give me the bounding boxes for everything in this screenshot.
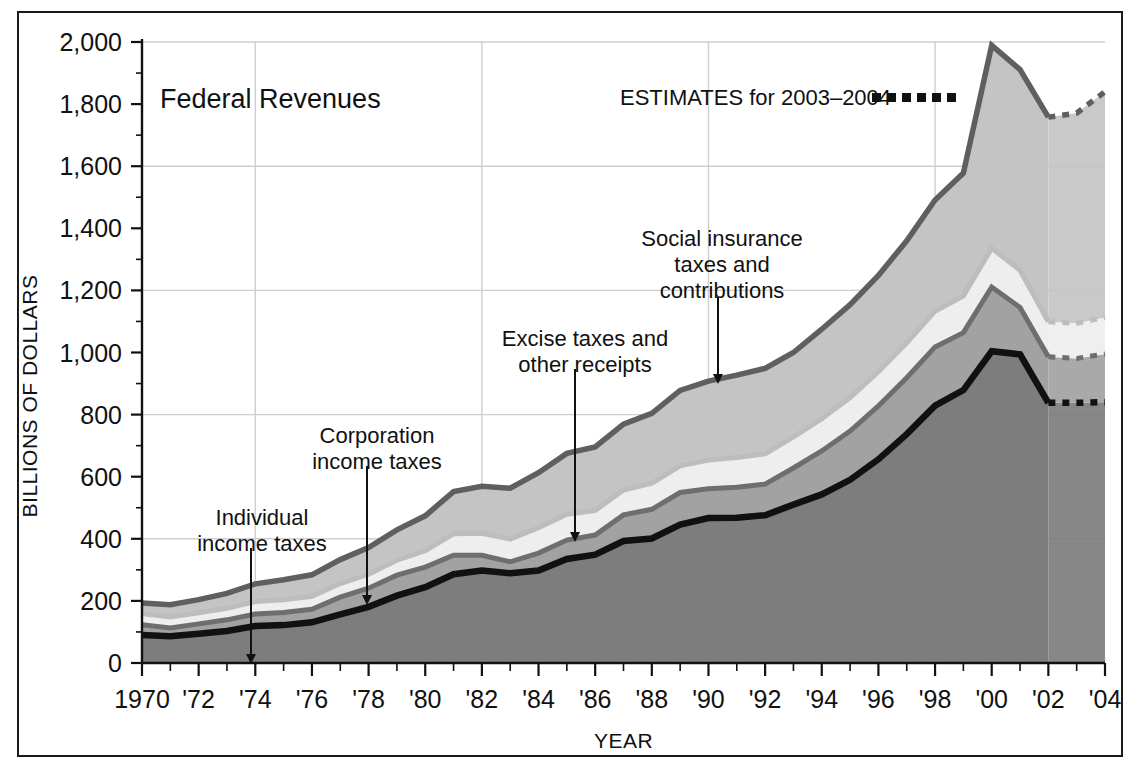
y-tick-label: 800 bbox=[80, 401, 122, 429]
chart-screenshot: 02004006008001,0001,2001,4001,6001,8002,… bbox=[0, 0, 1142, 776]
legend-dotted-line-marker bbox=[932, 93, 941, 102]
x-tick-label: '72 bbox=[182, 685, 215, 713]
annotation-label: Individual bbox=[216, 505, 309, 530]
x-tick-label: '02 bbox=[1032, 685, 1065, 713]
x-tick-label: '04 bbox=[1089, 685, 1122, 713]
area-estimate-3 bbox=[1048, 92, 1105, 324]
x-tick-label: '90 bbox=[692, 685, 725, 713]
y-axis-title: BILLIONS OF DOLLARS bbox=[18, 275, 41, 518]
x-tick-label: '84 bbox=[522, 685, 555, 713]
legend-dotted-line-marker bbox=[872, 93, 881, 102]
annotation-label: Corporation bbox=[320, 423, 435, 448]
legend-dotted-line-marker bbox=[947, 93, 956, 102]
x-tick-label: 1970 bbox=[114, 685, 170, 713]
federal-revenues-area-chart: 02004006008001,0001,2001,4001,6001,8002,… bbox=[0, 0, 1142, 776]
x-tick-label: '86 bbox=[579, 685, 612, 713]
x-tick-label: '74 bbox=[239, 685, 272, 713]
y-tick-label: 1,600 bbox=[59, 152, 122, 180]
annotation-label: contributions bbox=[660, 278, 785, 303]
area-estimate-0 bbox=[1048, 402, 1105, 663]
annotation-label: income taxes bbox=[197, 531, 327, 556]
y-tick-label: 1,800 bbox=[59, 90, 122, 118]
legend-dotted-line-marker bbox=[902, 93, 911, 102]
y-tick-label: 200 bbox=[80, 587, 122, 615]
x-axis-title: YEAR bbox=[594, 729, 653, 752]
annotation-label: income taxes bbox=[312, 449, 442, 474]
annotation-label: taxes and bbox=[674, 252, 769, 277]
y-tick-label: 1,000 bbox=[59, 339, 122, 367]
legend-estimates-label: ESTIMATES for 2003–2004 bbox=[620, 85, 891, 110]
area-estimate-1 bbox=[1048, 354, 1105, 403]
x-tick-label: '98 bbox=[919, 685, 952, 713]
x-tick-label: '78 bbox=[352, 685, 385, 713]
y-tick-label: 1,200 bbox=[59, 276, 122, 304]
x-tick-label: '88 bbox=[636, 685, 669, 713]
y-tick-label: 0 bbox=[108, 649, 122, 677]
x-tick-label: '92 bbox=[749, 685, 782, 713]
x-tick-label: '00 bbox=[975, 685, 1008, 713]
annotation-label: other receipts bbox=[518, 352, 651, 377]
y-tick-label: 2,000 bbox=[59, 28, 122, 56]
x-tick-label: '82 bbox=[466, 685, 499, 713]
annotation-label: Excise taxes and bbox=[502, 326, 668, 351]
legend-group: ESTIMATES for 2003–2004 bbox=[620, 85, 956, 110]
chart-title: Federal Revenues bbox=[160, 84, 381, 114]
annotation-label: Social insurance bbox=[641, 226, 802, 251]
x-tick-label: '96 bbox=[862, 685, 895, 713]
x-tick-label: '76 bbox=[296, 685, 329, 713]
legend-dotted-line-marker bbox=[887, 93, 896, 102]
x-tick-label: '94 bbox=[805, 685, 838, 713]
y-tick-label: 400 bbox=[80, 525, 122, 553]
y-tick-label: 600 bbox=[80, 463, 122, 491]
legend-dotted-line-marker bbox=[917, 93, 926, 102]
y-tick-label: 1,400 bbox=[59, 214, 122, 242]
x-tick-label: '80 bbox=[409, 685, 442, 713]
